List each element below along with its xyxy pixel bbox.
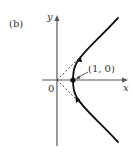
vertex-point bbox=[70, 77, 75, 82]
point-label: (1, 0) bbox=[88, 64, 115, 74]
origin-label: 0 bbox=[48, 84, 54, 94]
y-axis-arrow-icon bbox=[55, 15, 60, 21]
panel-label: (b) bbox=[9, 19, 23, 29]
leader-arrow-icon bbox=[76, 76, 81, 80]
y-axis-label: y bbox=[47, 12, 53, 22]
x-axis-label: x bbox=[123, 83, 129, 93]
